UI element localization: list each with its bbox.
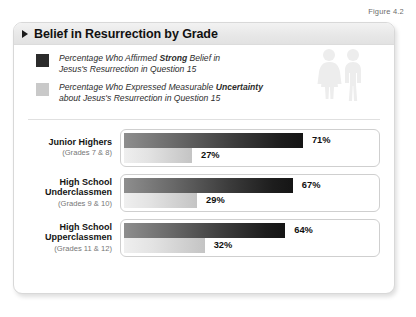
bar-chart: Junior Highers (Grades 7 & 8) 71% 27% Hi… [14, 120, 394, 257]
chart-group: Junior Highers (Grades 7 & 8) 71% 27% [28, 129, 380, 167]
category-sublabel: (Grades 9 & 10) [28, 199, 112, 209]
legend-text-suffix: Belief in [187, 53, 220, 63]
two-people-icon [312, 47, 370, 103]
bar-row-strong: 64% [124, 223, 376, 238]
figure-caption: Figure 4.2 [368, 7, 404, 16]
bar-row-uncertainty: 27% [124, 148, 376, 163]
bar-row-strong: 67% [124, 178, 376, 193]
bar-container: 71% 27% [120, 129, 380, 167]
category-sublabel: (Grades 7 & 8) [28, 148, 112, 158]
bar-strong [124, 133, 303, 148]
bar-value-strong: 67% [302, 180, 321, 190]
category-label-block: Junior Highers (Grades 7 & 8) [28, 137, 120, 159]
bar-container: 64% 32% [120, 219, 380, 257]
legend-text-line2: Jesus's Resurrection in Question 15 [59, 64, 196, 74]
bar-uncertainty [124, 193, 197, 208]
bar-value-uncertainty: 32% [214, 240, 233, 250]
legend-text-prefix: Percentage Who Affirmed [59, 53, 159, 63]
legend-swatch-light [36, 83, 49, 96]
chart-group: High School Underclassmen (Grades 9 & 10… [28, 174, 380, 212]
bar-value-uncertainty: 29% [206, 195, 225, 205]
bar-row-uncertainty: 29% [124, 193, 376, 208]
figure-card: Belief in Resurrection by Grade Percenta… [13, 22, 395, 294]
bar-value-uncertainty: 27% [201, 150, 220, 160]
legend-item-label: Percentage Who Affirmed Strong Belief in… [59, 53, 220, 76]
bar-row-strong: 71% [124, 133, 376, 148]
page-title: Belief in Resurrection by Grade [34, 27, 218, 41]
category-label-block: High School Underclassmen (Grades 9 & 10… [28, 177, 120, 209]
triangle-right-icon [22, 30, 28, 38]
legend-text-emphasis: Strong [159, 53, 187, 63]
bar-strong [124, 223, 285, 238]
legend-item-label: Percentage Who Expressed Measurable Unce… [59, 82, 263, 105]
legend: Percentage Who Affirmed Strong Belief in… [14, 45, 394, 117]
figure-title-bar: Belief in Resurrection by Grade [14, 23, 394, 45]
legend-swatch-dark [36, 54, 49, 67]
bar-value-strong: 71% [312, 135, 331, 145]
category-label-block: High School Upperclassmen (Grades 11 & 1… [28, 222, 120, 254]
bar-uncertainty [124, 238, 205, 253]
legend-text-emphasis: Uncertainty [216, 82, 263, 92]
category-sublabel: (Grades 11 & 12) [28, 244, 112, 254]
bar-value-strong: 64% [294, 225, 313, 235]
category-name: High School Underclassmen [28, 177, 112, 198]
category-name: Junior Highers [28, 137, 112, 148]
bar-strong [124, 178, 293, 193]
chart-group: High School Upperclassmen (Grades 11 & 1… [28, 219, 380, 257]
bar-uncertainty [124, 148, 192, 163]
legend-text-prefix: Percentage Who Expressed Measurable [59, 82, 216, 92]
bar-row-uncertainty: 32% [124, 238, 376, 253]
category-name: High School Upperclassmen [28, 222, 112, 243]
legend-text-line2: about Jesus's Resurrection in Question 1… [59, 93, 220, 103]
bar-container: 67% 29% [120, 174, 380, 212]
